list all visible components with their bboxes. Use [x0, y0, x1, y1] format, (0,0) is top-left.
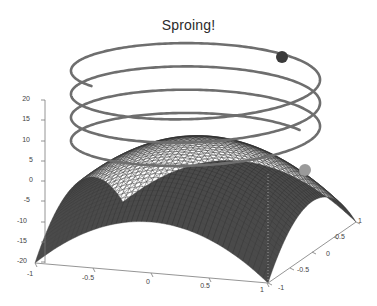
spring-end-markers	[276, 51, 311, 176]
spring-top-end-marker	[276, 51, 288, 63]
z-tick-label-7: -15	[17, 237, 27, 244]
x-axis-line	[35, 263, 268, 283]
x-axis-ticks	[35, 263, 269, 287]
z-tick-label-3: 5	[29, 156, 33, 163]
x-tick-label-2: 0	[146, 278, 150, 285]
z-tick-label-6: -10	[17, 217, 27, 224]
spring-bottom-end-marker	[299, 164, 311, 176]
z-axis-tick-labels: 20151050-5-10-15-20	[17, 95, 33, 264]
z-tick-label-4: 0	[29, 176, 33, 183]
y-tick-label-0: -1	[278, 284, 284, 291]
z-tick-label-1: 15	[22, 115, 30, 122]
x-tick-label-4: 1	[260, 286, 264, 293]
y-tick-label-3: 0.5	[335, 233, 345, 240]
surface-mesh	[35, 136, 356, 283]
matlab-figure-window: Sproing!	[0, 0, 377, 306]
x-tick-label-1: -0.5	[82, 274, 94, 281]
z-tick-label-2: 10	[22, 136, 30, 143]
x-axis-tick-labels: -1-0.500.51	[27, 270, 264, 293]
z-tick-label-8: -20	[17, 257, 27, 264]
y-tick-label-1: -0.5	[297, 266, 309, 273]
z-tick-label-0: 20	[22, 95, 30, 102]
y-tick-label-4: 1	[358, 217, 362, 224]
x-tick-label-0: -1	[27, 270, 33, 277]
z-tick-label-5: -5	[24, 196, 30, 203]
x-tick-label-3: 0.5	[200, 282, 210, 289]
plot-canvas: 20151050-5-10-15-20 -1-0.500.51 -1-0.500…	[0, 0, 377, 306]
y-tick-label-2: 0	[326, 250, 330, 257]
